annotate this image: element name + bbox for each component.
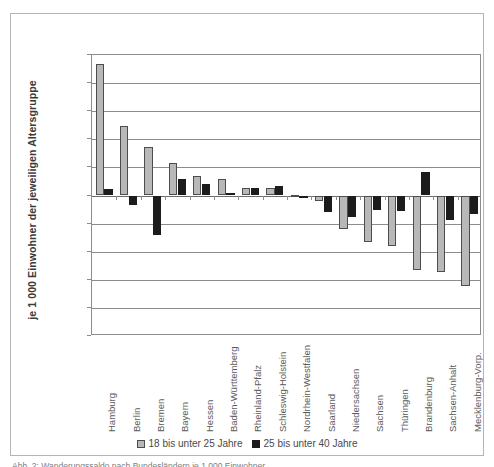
x-axis-label-bremen: Bremen bbox=[156, 399, 166, 432]
gridline--10 bbox=[92, 224, 480, 225]
bar bbox=[421, 172, 429, 195]
y-tick-mark bbox=[87, 110, 91, 111]
x-tick-mark bbox=[190, 196, 191, 200]
bar bbox=[169, 163, 177, 195]
plot-area bbox=[91, 54, 481, 335]
y-tick-mark bbox=[87, 54, 91, 55]
x-axis-label-nordrhein-westfalen: Nordrhein-Westfalen bbox=[302, 345, 312, 432]
gridline-0 bbox=[92, 196, 480, 197]
gridline--20 bbox=[92, 252, 480, 253]
x-axis-label-th-ringen: Thüringen bbox=[400, 389, 410, 432]
legend-label: 25 bis unter 40 Jahre bbox=[264, 438, 358, 449]
bar bbox=[470, 196, 478, 214]
plot-wrap: 50403020100-10-20-30-40-50 bbox=[91, 54, 481, 335]
bar bbox=[364, 196, 372, 243]
y-tick-mark bbox=[87, 195, 91, 196]
y-tick-mark bbox=[87, 335, 91, 336]
x-axis-label-rheinland-pfalz: Rheinland-Pfalz bbox=[253, 365, 263, 432]
bar bbox=[275, 186, 283, 195]
y-tick-mark bbox=[87, 82, 91, 83]
x-axis-label-baden-w-rttemberg: Baden-Württemberg bbox=[229, 346, 239, 432]
gridline-20 bbox=[92, 139, 480, 140]
x-axis-label-sachsen: Sachsen bbox=[375, 395, 385, 432]
bar bbox=[96, 64, 104, 196]
x-tick-mark bbox=[214, 196, 215, 200]
bar bbox=[291, 195, 299, 197]
y-tick-mark bbox=[87, 166, 91, 167]
figure-caption: Abb. 2: Wanderungssaldo nach Bundeslände… bbox=[12, 461, 482, 467]
bar bbox=[437, 196, 445, 273]
legend-item: 18 bis unter 25 Jahre bbox=[137, 438, 243, 449]
y-axis-title: je 1 000 Einwohner der jeweiligen Alters… bbox=[25, 54, 39, 346]
chart-legend: 18 bis unter 25 Jahre25 bis unter 40 Jah… bbox=[11, 438, 483, 449]
bar bbox=[251, 188, 259, 195]
bar bbox=[397, 196, 405, 211]
gridline--30 bbox=[92, 280, 480, 281]
bar bbox=[153, 196, 161, 235]
x-axis-label-niedersachsen: Niedersachsen bbox=[351, 369, 361, 432]
legend-label: 18 bis unter 25 Jahre bbox=[149, 438, 243, 449]
y-tick-mark bbox=[87, 251, 91, 252]
bar bbox=[242, 188, 250, 196]
bar bbox=[218, 179, 226, 195]
x-tick-mark bbox=[116, 196, 117, 200]
x-axis-label-bayern: Bayern bbox=[180, 402, 190, 432]
black-square-icon bbox=[252, 440, 260, 448]
x-tick-mark bbox=[385, 196, 386, 200]
gridline-40 bbox=[92, 83, 480, 84]
x-tick-mark bbox=[238, 196, 239, 200]
bar bbox=[348, 196, 356, 217]
y-tick-mark bbox=[87, 223, 91, 224]
bar bbox=[129, 196, 137, 206]
bar bbox=[324, 196, 332, 212]
bar bbox=[202, 184, 210, 195]
bar bbox=[120, 126, 128, 196]
legend-item: 25 bis unter 40 Jahre bbox=[252, 438, 358, 449]
bar bbox=[104, 189, 112, 195]
bar bbox=[339, 196, 347, 229]
bar bbox=[413, 196, 421, 271]
y-tick-mark bbox=[87, 279, 91, 280]
y-tick-mark bbox=[87, 307, 91, 308]
x-axis-label-hessen: Hessen bbox=[205, 400, 215, 432]
x-tick-mark bbox=[433, 196, 434, 200]
x-axis-label-hamburg: Hamburg bbox=[107, 393, 117, 432]
bar bbox=[144, 147, 152, 195]
y-tick-mark bbox=[87, 138, 91, 139]
x-tick-mark bbox=[458, 196, 459, 200]
x-axis-label-sachsen-anhalt: Sachsen-Anhalt bbox=[448, 365, 458, 432]
x-tick-mark bbox=[287, 196, 288, 200]
bar bbox=[388, 196, 396, 246]
bar bbox=[299, 196, 307, 199]
x-tick-mark bbox=[336, 196, 337, 200]
x-tick-mark bbox=[409, 196, 410, 200]
gridline--40 bbox=[92, 308, 480, 309]
bar bbox=[226, 193, 234, 196]
x-tick-mark bbox=[141, 196, 142, 200]
bar bbox=[178, 179, 186, 196]
x-tick-mark bbox=[263, 196, 264, 200]
x-axis-label-berlin: Berlin bbox=[132, 408, 142, 432]
x-tick-mark bbox=[311, 196, 312, 200]
bar bbox=[446, 196, 454, 221]
x-axis-label-brandenburg: Brandenburg bbox=[424, 377, 434, 432]
x-axis-label-mecklenburg-vorp: Mecklenburg-Vorp. bbox=[473, 352, 483, 432]
light-gray-square-icon bbox=[137, 440, 145, 448]
x-axis-label-schleswig-holstein: Schleswig-Holstein bbox=[278, 352, 288, 432]
bar bbox=[193, 176, 201, 195]
x-tick-mark bbox=[360, 196, 361, 200]
bar bbox=[315, 196, 323, 201]
bar bbox=[461, 196, 469, 286]
gridline-30 bbox=[92, 111, 480, 112]
bar bbox=[266, 188, 274, 195]
bar bbox=[373, 196, 381, 210]
x-tick-mark bbox=[165, 196, 166, 200]
x-axis-labels: HamburgBerlinBremenBayernHessenBaden-Wür… bbox=[91, 338, 481, 434]
figure-frame: je 1 000 Einwohner der jeweiligen Alters… bbox=[10, 13, 484, 456]
x-axis-label-saarland: Saarland bbox=[327, 394, 337, 432]
